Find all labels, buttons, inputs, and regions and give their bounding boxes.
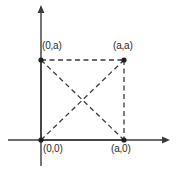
coordinate-square-figure: (0,a) (a,a) (0,0) (a,0) [0,0,176,173]
vertex-dot-origin [38,137,43,142]
vertex-dot-a0 [121,137,126,142]
figure-canvas [0,0,176,173]
point-label-0a: (0,a) [42,40,62,52]
x-axis-arrow-icon [162,137,170,144]
y-axis-arrow-icon [38,5,45,13]
point-label-a0: (a,0) [111,143,131,155]
vertex-dot-aa [121,57,126,62]
point-label-aa: (a,a) [113,40,133,52]
vertex-dot-0a [38,57,43,62]
point-label-00: (0,0) [43,143,63,155]
